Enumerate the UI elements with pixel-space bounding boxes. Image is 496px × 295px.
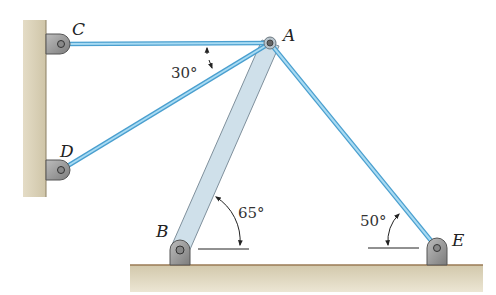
- svg-text:65°: 65°: [238, 204, 265, 222]
- bracket-d: [46, 160, 70, 180]
- statics-diagram: 30° 65° 50° A B C D E: [0, 0, 496, 295]
- label-e: E: [451, 230, 465, 250]
- label-d: D: [59, 141, 74, 161]
- svg-text:50°: 50°: [360, 212, 387, 230]
- svg-text:30°: 30°: [171, 64, 198, 82]
- angle-30: 30°: [171, 48, 212, 82]
- pin-a: [264, 37, 276, 49]
- bracket-e: [427, 238, 447, 265]
- bracket-b: [170, 240, 190, 265]
- wall: [23, 20, 46, 197]
- label-c: C: [72, 19, 85, 39]
- ground: [130, 265, 483, 292]
- label-a: A: [281, 25, 295, 45]
- bracket-c: [46, 34, 70, 54]
- label-b: B: [155, 221, 169, 241]
